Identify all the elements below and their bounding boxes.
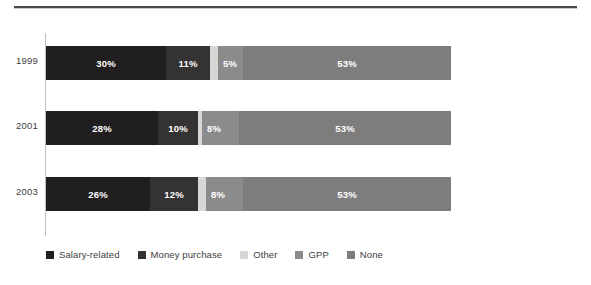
category-label-1999: 1999 bbox=[0, 55, 38, 66]
bar-row: 200128%10%8%53% bbox=[0, 111, 591, 145]
legend-item-salary-related[interactable]: Salary-related bbox=[46, 249, 120, 260]
bar-segment-money-purchase: 10% bbox=[158, 111, 198, 145]
legend-swatch-icon bbox=[347, 251, 355, 259]
legend-swatch-icon bbox=[46, 251, 54, 259]
legend-label: None bbox=[360, 249, 383, 260]
legend-label: GPP bbox=[308, 249, 328, 260]
legend-swatch-icon bbox=[295, 251, 303, 259]
category-label-2001: 2001 bbox=[0, 120, 38, 131]
segment-value-label: 8% bbox=[211, 189, 225, 200]
segment-value-label: 30% bbox=[96, 58, 116, 69]
segment-value-label: 5% bbox=[223, 58, 237, 69]
segment-value-label: 11% bbox=[178, 58, 197, 69]
segment-value-label: 28% bbox=[92, 123, 112, 134]
bar-segment-salary-related: 26% bbox=[46, 177, 150, 211]
bar-segment-money-purchase: 12% bbox=[150, 177, 198, 211]
bar-segment-none: 53% bbox=[239, 111, 451, 145]
stacked-bar: 26%12%8%53% bbox=[46, 177, 451, 211]
bar-segment-gpp: 8% bbox=[206, 177, 243, 211]
category-label-2003: 2003 bbox=[0, 186, 38, 197]
segment-value-label: 53% bbox=[335, 123, 355, 134]
bar-segment-none: 53% bbox=[243, 177, 451, 211]
legend-swatch-icon bbox=[138, 251, 146, 259]
bar-row: 200326%12%8%53% bbox=[0, 177, 591, 211]
segment-value-label: 8% bbox=[207, 123, 221, 134]
bar-row: 199930%11%5%53% bbox=[0, 46, 591, 80]
stacked-bar: 30%11%5%53% bbox=[46, 46, 451, 80]
bar-segment-other bbox=[210, 46, 218, 80]
bar-segment-gpp: 8% bbox=[202, 111, 239, 145]
legend-item-other[interactable]: Other bbox=[240, 249, 277, 260]
segment-value-label: 12% bbox=[164, 189, 184, 200]
bar-segment-other bbox=[198, 177, 206, 211]
bar-segment-salary-related: 30% bbox=[46, 46, 166, 80]
segment-value-label: 26% bbox=[88, 189, 108, 200]
bar-segment-none: 53% bbox=[243, 46, 451, 80]
legend-label: Salary-related bbox=[59, 249, 120, 260]
legend-item-none[interactable]: None bbox=[347, 249, 383, 260]
stacked-bar: 28%10%8%53% bbox=[46, 111, 451, 145]
segment-value-label: 10% bbox=[168, 123, 188, 134]
stacked-bar-chart: 199930%11%5%53%200128%10%8%53%200326%12%… bbox=[0, 0, 591, 285]
legend-label: Other bbox=[253, 249, 277, 260]
legend-label: Money purchase bbox=[151, 249, 223, 260]
bar-segment-gpp: 5% bbox=[218, 46, 243, 80]
bar-segment-money-purchase: 11% bbox=[166, 46, 210, 80]
legend-swatch-icon bbox=[240, 251, 248, 259]
bar-segment-salary-related: 28% bbox=[46, 111, 158, 145]
segment-value-label: 53% bbox=[337, 58, 357, 69]
legend-item-gpp[interactable]: GPP bbox=[295, 249, 328, 260]
plot-area: 199930%11%5%53%200128%10%8%53%200326%12%… bbox=[0, 0, 591, 285]
legend-item-money-purchase[interactable]: Money purchase bbox=[138, 249, 223, 260]
segment-value-label: 53% bbox=[337, 189, 357, 200]
chart-legend: Salary-relatedMoney purchaseOtherGPPNone bbox=[46, 249, 401, 260]
